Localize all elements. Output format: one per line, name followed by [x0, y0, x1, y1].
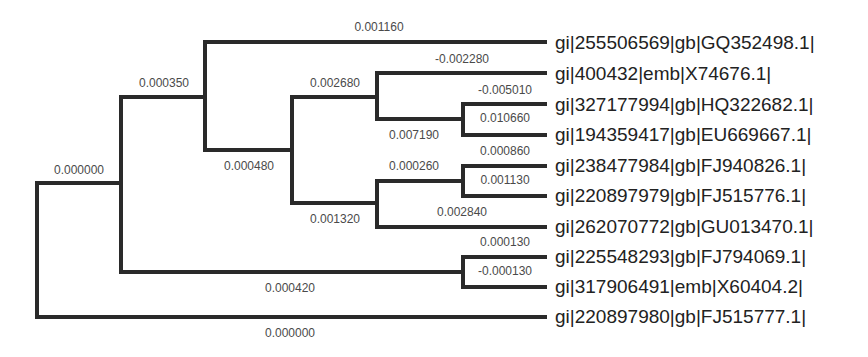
leaf-label: gi|238477984|gb|FJ940826.1| [555, 156, 806, 175]
node-a-vertical [119, 95, 123, 274]
leaf-label: gi|225548293|gb|FJ794069.1| [555, 247, 806, 266]
f-to-leaf7-branch [375, 225, 547, 229]
b-to-c-branch [203, 148, 293, 152]
branch-label-a-upper: 0.000350 [139, 76, 189, 90]
leaf-label: gi|194359417|gb|EU669667.1| [555, 125, 811, 144]
branch-label-f-upper: 0.000260 [389, 159, 439, 173]
branch-label-root-lower: 0.000000 [265, 326, 315, 340]
leaf-label: gi|255506569|gb|GQ352498.1| [555, 33, 815, 52]
root-to-a-branch [35, 181, 123, 185]
branch-label-b-upper: 0.001160 [354, 20, 403, 34]
g-to-leaf5-branch [461, 164, 547, 168]
branch-label-e-lower: 0.010660 [480, 111, 530, 125]
branch-label-d-upper: -0.002280 [435, 52, 489, 66]
c-to-f-branch [290, 201, 378, 205]
f-to-g-branch [375, 179, 464, 183]
a-to-h-branch [119, 270, 465, 274]
d-to-e-branch [375, 117, 464, 121]
branch-label-b-lower: 0.000480 [224, 159, 274, 173]
branch-label-root-upper: 0.000000 [54, 163, 104, 177]
g-to-leaf6-branch [461, 194, 547, 198]
branch-label-c-upper: 0.002680 [310, 76, 360, 90]
leaf-label: gi|220897979|gb|FJ515776.1| [555, 186, 806, 205]
node-h-vertical [461, 255, 465, 289]
d-to-leaf2-branch [375, 71, 547, 75]
leaf-label: gi|220897980|gb|FJ515777.1| [555, 307, 806, 326]
node-f-vertical [375, 179, 379, 229]
branch-label-g-lower: 0.001130 [480, 173, 529, 187]
branch-label-g-upper: 0.000860 [480, 144, 530, 158]
branch-label-c-lower: 0.001320 [310, 212, 360, 226]
c-to-d-branch [290, 95, 378, 99]
node-g-vertical [461, 164, 465, 198]
branch-label-d-lower: 0.007190 [389, 128, 439, 142]
h-to-leaf9-branch [461, 285, 547, 289]
branch-label-h-upper: 0.000130 [480, 235, 530, 249]
branch-label-h-lower: -0.000130 [478, 264, 532, 278]
branch-label-e-upper: -0.005010 [478, 83, 532, 97]
leaf-label: gi|317906491|emb|X60404.2| [555, 277, 803, 296]
leaf-label: gi|327177994|gb|HQ322682.1| [555, 95, 814, 114]
h-to-leaf8-branch [461, 255, 547, 259]
branch-label-f-lower: 0.002840 [437, 205, 487, 219]
leaf-label: gi|262070772|gb|GU013470.1| [555, 217, 814, 236]
node-b-vertical [203, 40, 207, 152]
leaf-label: gi|400432|emb|X74676.1| [555, 64, 771, 83]
a-to-b-branch [119, 95, 207, 99]
root-vertical [35, 181, 39, 319]
root-to-leaf10-branch [35, 315, 547, 319]
e-to-leaf4-branch [461, 133, 547, 137]
node-c-vertical [290, 95, 294, 205]
b-to-leaf1-branch [203, 40, 547, 44]
e-to-leaf3-branch [461, 102, 547, 106]
branch-label-a-lower: 0.000420 [265, 281, 315, 295]
node-e-vertical [461, 102, 465, 137]
node-d-vertical [375, 71, 379, 121]
